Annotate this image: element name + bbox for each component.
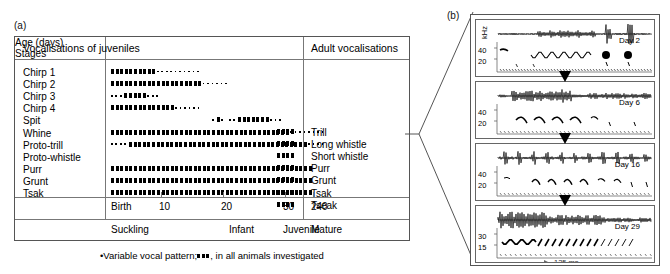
pattern-dot	[229, 119, 231, 121]
pattern-square	[139, 178, 142, 183]
pattern-square	[139, 130, 142, 135]
pattern-square	[258, 178, 261, 183]
pattern-square	[180, 190, 183, 195]
pattern-dot	[157, 71, 159, 73]
pattern-square	[129, 130, 132, 135]
pattern-square	[189, 178, 192, 183]
pattern-square	[143, 130, 146, 135]
pattern-dot	[216, 83, 218, 85]
pattern-dot	[175, 71, 177, 73]
pattern-square	[212, 130, 215, 135]
spectrogram-panel: kHz4020Day 24020Day 64020Day 163015Day 2…	[470, 14, 660, 266]
pattern-dot	[111, 95, 113, 97]
pattern-square	[194, 166, 197, 171]
pattern-dot	[152, 95, 154, 97]
pattern-square	[263, 190, 266, 195]
pattern-square	[194, 130, 197, 135]
pattern-square	[253, 142, 256, 147]
pattern-square	[282, 129, 285, 134]
pattern-square	[299, 166, 302, 171]
pattern-square	[271, 142, 274, 147]
pattern-square	[291, 165, 294, 170]
pattern-square	[277, 190, 280, 195]
pattern-square	[143, 190, 146, 195]
pattern-dot	[212, 83, 214, 85]
pattern-square	[157, 166, 160, 171]
pattern-square	[180, 81, 183, 86]
pattern-square	[226, 130, 229, 135]
pattern-square	[152, 105, 155, 110]
footnote-text-2: , in all animals investigated	[210, 250, 324, 261]
pattern-square	[249, 130, 252, 135]
pattern-square	[170, 142, 173, 147]
pattern-square	[253, 166, 256, 171]
pattern-dot	[193, 71, 195, 73]
pattern-square	[235, 130, 238, 135]
vocalisation-row-label: Grunt	[23, 176, 48, 187]
pattern-square	[134, 130, 137, 135]
pattern-dot	[189, 107, 191, 109]
pattern-square	[143, 178, 146, 183]
pattern-square	[244, 166, 247, 171]
pattern-square	[249, 178, 252, 183]
age-tick-label: Birth	[111, 201, 132, 212]
pattern-square	[256, 117, 259, 122]
pattern-square	[111, 166, 114, 171]
pattern-square	[125, 81, 128, 86]
pattern-square	[116, 166, 119, 171]
pattern-square	[125, 105, 128, 110]
pattern-square	[263, 166, 266, 171]
pattern-dot	[179, 71, 181, 73]
pattern-square	[129, 105, 132, 110]
adult-vocalisation-label: Short whistle	[311, 151, 368, 162]
pattern-square	[189, 166, 192, 171]
pattern-square	[193, 142, 196, 147]
pattern-dot	[115, 95, 117, 97]
pattern-square	[180, 166, 183, 171]
pattern-square	[194, 178, 197, 183]
legend-square-icon	[202, 254, 205, 258]
pattern-square	[157, 130, 160, 135]
pattern-square	[247, 117, 250, 122]
pattern-square	[235, 178, 238, 183]
pattern-square	[266, 117, 269, 122]
pattern-square	[221, 178, 224, 183]
pattern-square	[116, 130, 119, 135]
pattern-square	[291, 177, 294, 182]
pattern-square	[166, 105, 169, 110]
pattern-square	[139, 190, 142, 195]
pattern-dot	[308, 131, 310, 133]
pattern-square	[291, 141, 294, 146]
pattern-dot	[221, 119, 223, 121]
pattern-square	[261, 117, 264, 122]
pattern-square	[262, 142, 265, 147]
pattern-square	[212, 142, 215, 147]
pattern-square	[221, 130, 224, 135]
adult-vocalisation-label: Purr	[311, 163, 330, 174]
adult-vocalisation-label: Grunt	[311, 175, 336, 186]
pattern-square	[230, 178, 233, 183]
pattern-square	[134, 105, 137, 110]
pattern-square	[157, 178, 160, 183]
adult-pattern-strip	[277, 129, 295, 136]
pattern-square	[134, 178, 137, 183]
pattern-square	[125, 178, 128, 183]
progression-arrow-icon	[559, 195, 571, 206]
pattern-square	[185, 178, 188, 183]
pattern-dot	[299, 131, 301, 133]
adult-vocalisation-label: Trill	[311, 127, 327, 138]
pattern-square	[217, 130, 220, 135]
pattern-square	[125, 166, 128, 171]
pattern-square	[249, 166, 252, 171]
pattern-square	[189, 142, 192, 147]
pattern-square	[120, 166, 123, 171]
pattern-square	[171, 130, 174, 135]
progression-arrow-icon	[559, 133, 571, 144]
age-tick-label: 20	[221, 201, 232, 212]
pattern-square	[225, 142, 228, 147]
age-tick	[223, 192, 224, 197]
pattern-square	[171, 178, 174, 183]
pattern-dot	[124, 143, 126, 145]
pattern-square	[175, 166, 178, 171]
pattern-square	[304, 142, 307, 147]
